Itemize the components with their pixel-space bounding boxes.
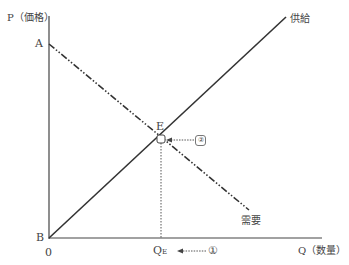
annotation-one: ①: [208, 245, 218, 257]
point-a-label: A: [35, 38, 43, 50]
arrow-one-head: [177, 249, 183, 254]
annotation-two: ②: [195, 134, 206, 146]
annotation-two-text: ②: [195, 135, 206, 146]
supply-label: 供給: [290, 13, 310, 25]
demand-curve: [49, 44, 249, 210]
supply-curve: [49, 17, 286, 238]
origin-label: 0: [45, 247, 52, 259]
qe-subscript: E: [162, 248, 167, 256]
equilibrium-marker: [157, 135, 165, 143]
point-e-label: E: [156, 121, 164, 133]
point-b-label: B: [36, 232, 44, 244]
demand-label: 需要: [241, 215, 261, 227]
price-axis-label: P（価格）: [7, 12, 54, 24]
qe-main: Q: [153, 244, 162, 257]
supply-demand-diagram: [0, 0, 349, 265]
quantity-axis-label: Q（数量）: [298, 245, 346, 257]
qe-label: QE: [153, 245, 167, 258]
